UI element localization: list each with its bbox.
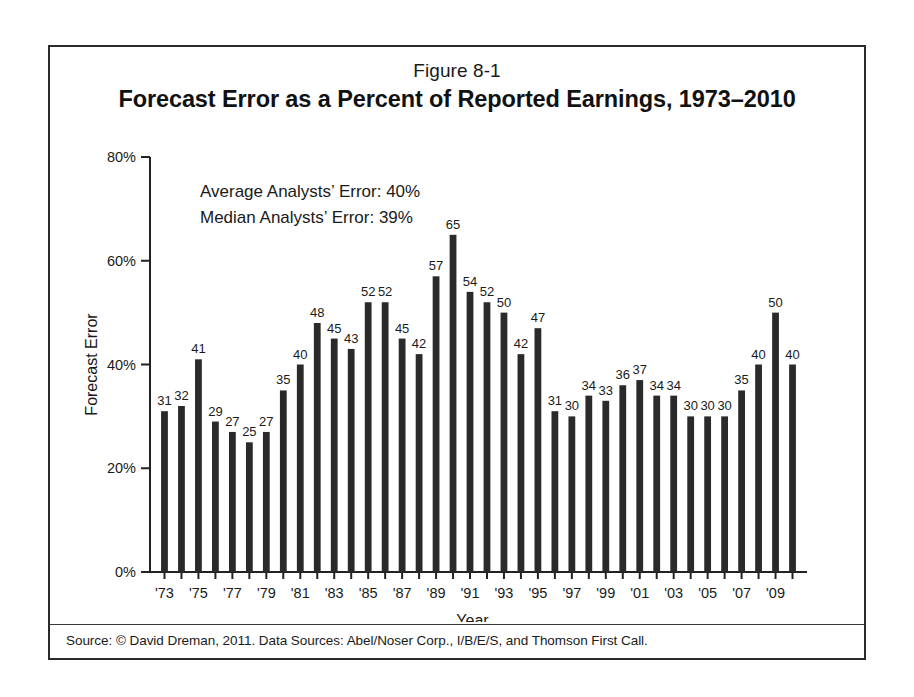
- source-divider: [50, 624, 864, 625]
- bar-chart: 0%20%40%60%80%Forecast Error313241292725…: [50, 47, 868, 622]
- bar-value-label: 42: [412, 336, 426, 351]
- bar-value-label: 50: [497, 295, 511, 310]
- average-error-annotation: Average Analysts’ Error: 40%: [200, 182, 420, 201]
- y-axis-tick-label: 0%: [115, 564, 136, 580]
- bar[interactable]: [433, 276, 440, 572]
- x-axis-tick-label: '99: [596, 585, 615, 601]
- bar[interactable]: [229, 432, 236, 572]
- bar[interactable]: [365, 302, 372, 572]
- bar-value-label: 40: [785, 347, 799, 362]
- bar[interactable]: [585, 396, 592, 572]
- bar[interactable]: [178, 406, 185, 572]
- bar-value-label: 65: [446, 217, 460, 232]
- bar-value-label: 43: [344, 331, 358, 346]
- bar[interactable]: [755, 365, 762, 573]
- x-axis-tick-label: '97: [562, 585, 581, 601]
- bar[interactable]: [348, 349, 355, 572]
- x-axis-title: Year: [456, 612, 489, 622]
- bar-value-label: 54: [463, 274, 477, 289]
- bar[interactable]: [399, 339, 406, 572]
- bar[interactable]: [416, 354, 423, 572]
- bar[interactable]: [212, 422, 219, 572]
- bar[interactable]: [297, 365, 304, 573]
- bar-value-label: 25: [242, 424, 256, 439]
- bar[interactable]: [280, 390, 287, 572]
- bar-value-label: 35: [276, 372, 290, 387]
- bar[interactable]: [501, 313, 508, 572]
- bar[interactable]: [738, 390, 745, 572]
- x-axis-tick-label: '77: [223, 585, 242, 601]
- bar-value-label: 48: [310, 305, 324, 320]
- bar[interactable]: [450, 235, 457, 572]
- bar-value-label: 41: [191, 341, 205, 356]
- bar[interactable]: [636, 380, 643, 572]
- bar-value-label: 36: [616, 367, 630, 382]
- bar-value-label: 34: [649, 378, 663, 393]
- x-axis-tick-label: '73: [155, 585, 174, 601]
- bar-value-label: 30: [700, 398, 714, 413]
- chart-annotations: Average Analysts’ Error: 40%Median Analy…: [200, 182, 420, 227]
- bar-value-label: 45: [395, 321, 409, 336]
- bar-value-label: 50: [768, 295, 782, 310]
- y-axis-title: Forecast Error: [83, 313, 100, 416]
- y-axis-tick-label: 40%: [107, 357, 136, 373]
- median-error-annotation: Median Analysts’ Error: 39%: [200, 208, 413, 227]
- bar-value-label: 40: [293, 347, 307, 362]
- bar[interactable]: [314, 323, 321, 572]
- bar-value-label: 42: [514, 336, 528, 351]
- plot-root: 0%20%40%60%80%Forecast Error313241292725…: [83, 149, 807, 622]
- y-axis-tick-label: 20%: [107, 460, 136, 476]
- bar[interactable]: [687, 416, 694, 572]
- y-axis-tick-label: 80%: [107, 149, 136, 165]
- bar-value-label: 37: [633, 362, 647, 377]
- bar[interactable]: [602, 401, 609, 572]
- bar[interactable]: [331, 339, 338, 572]
- x-axis-tick-label: '89: [427, 585, 446, 601]
- bar[interactable]: [518, 354, 525, 572]
- bar-value-label: 30: [717, 398, 731, 413]
- bar[interactable]: [195, 359, 202, 572]
- bar-value-label: 27: [225, 414, 239, 429]
- bar[interactable]: [619, 385, 626, 572]
- bar[interactable]: [535, 328, 542, 572]
- bar-value-label: 47: [531, 310, 545, 325]
- bar-value-label: 57: [429, 258, 443, 273]
- bar-value-label: 31: [548, 393, 562, 408]
- bar[interactable]: [772, 313, 779, 572]
- bar[interactable]: [382, 302, 389, 572]
- bar-value-label: 35: [734, 372, 748, 387]
- x-axis-tick-label: '87: [393, 585, 412, 601]
- bar[interactable]: [704, 416, 711, 572]
- bar[interactable]: [484, 302, 491, 572]
- bar[interactable]: [568, 416, 575, 572]
- bar-value-label: 30: [565, 398, 579, 413]
- bar[interactable]: [467, 292, 474, 572]
- chart-svg: 0%20%40%60%80%Forecast Error313241292725…: [50, 47, 868, 622]
- y-axis-tick-label: 60%: [107, 253, 136, 269]
- bar[interactable]: [551, 411, 558, 572]
- bar-value-label: 33: [599, 383, 613, 398]
- x-axis-tick-label: '03: [664, 585, 683, 601]
- bar[interactable]: [789, 365, 796, 573]
- bar[interactable]: [721, 416, 728, 572]
- bar-value-label: 52: [361, 284, 375, 299]
- bar-value-label: 32: [174, 388, 188, 403]
- bar[interactable]: [246, 442, 253, 572]
- x-axis-tick-label: '93: [495, 585, 514, 601]
- bar[interactable]: [263, 432, 270, 572]
- x-axis-tick-label: '85: [359, 585, 378, 601]
- bar-value-label: 30: [683, 398, 697, 413]
- bar-value-label: 34: [582, 378, 596, 393]
- x-axis-tick-label: '95: [528, 585, 547, 601]
- bar[interactable]: [161, 411, 168, 572]
- x-axis-tick-label: '81: [291, 585, 310, 601]
- x-axis-tick-label: '75: [189, 585, 208, 601]
- x-axis-tick-label: '05: [698, 585, 717, 601]
- bar[interactable]: [653, 396, 660, 572]
- bar-value-label: 27: [259, 414, 273, 429]
- y-axis: 0%20%40%60%80%: [107, 149, 150, 580]
- x-axis-labels-group: '73'75'77'79'81'83'85'87'89'91'93'95'97'…: [155, 585, 785, 601]
- bar-labels-group: 3132412927252735404845435252454257655452…: [157, 217, 799, 440]
- bar[interactable]: [670, 396, 677, 572]
- bar-value-label: 45: [327, 321, 341, 336]
